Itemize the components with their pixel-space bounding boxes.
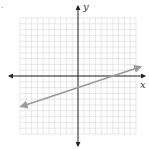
y-axis-label: y: [83, 2, 89, 12]
x-axis-label: x: [140, 80, 146, 90]
graphed-line: [21, 67, 140, 107]
coordinate-plane: [0, 0, 149, 149]
